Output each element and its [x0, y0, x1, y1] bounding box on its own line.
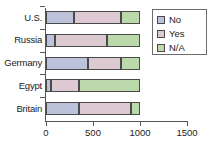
x-axis-tick-label: 1000 — [129, 127, 150, 138]
bar-segment-yes — [51, 79, 79, 92]
y-axis-label-russia: Russia — [0, 35, 42, 45]
y-axis-category-labels: U.S.RussiaGermanyEgyptBritain — [0, 0, 42, 155]
bar-row — [46, 34, 187, 47]
bar-row — [46, 102, 187, 115]
y-axis-label-britain: Britain — [0, 104, 42, 114]
x-axis-tick — [46, 122, 47, 126]
bar-segment-na — [121, 57, 140, 70]
stacked-bar-chart: U.S.RussiaGermanyEgyptBritain NoYesN/A 0… — [0, 0, 219, 155]
x-axis-tick-label: 0 — [43, 127, 48, 138]
bar-segment-na — [79, 79, 140, 92]
bar-row — [46, 79, 187, 92]
bar-row — [46, 57, 187, 70]
bar-segment-na — [131, 102, 140, 115]
y-axis-tick — [40, 97, 45, 98]
bar-segment-yes — [55, 34, 107, 47]
bar-segment-no — [46, 11, 74, 24]
y-axis-tick — [40, 74, 45, 75]
y-axis-tick — [40, 52, 45, 53]
bar-row — [46, 11, 187, 24]
x-axis-tick — [187, 122, 188, 126]
y-axis-label-us: U.S. — [0, 13, 42, 23]
y-axis-label-germany: Germany — [0, 58, 42, 68]
bar-segment-no — [46, 102, 79, 115]
y-axis-tick — [40, 6, 45, 7]
bar-segment-yes — [79, 102, 131, 115]
bar-segment-yes — [88, 57, 121, 70]
bar-segment-yes — [74, 11, 121, 24]
bar-segment-na — [121, 11, 140, 24]
y-axis-label-egypt: Egypt — [0, 81, 42, 91]
bar-segment-no — [46, 34, 55, 47]
x-axis-tick — [140, 122, 141, 126]
bar-segment-no — [46, 57, 88, 70]
x-axis-tick — [93, 122, 94, 126]
bar-segment-na — [107, 34, 140, 47]
x-axis-tick-label: 500 — [85, 127, 101, 138]
y-axis-tick — [40, 29, 45, 30]
x-axis-tick-label: 1500 — [176, 127, 197, 138]
